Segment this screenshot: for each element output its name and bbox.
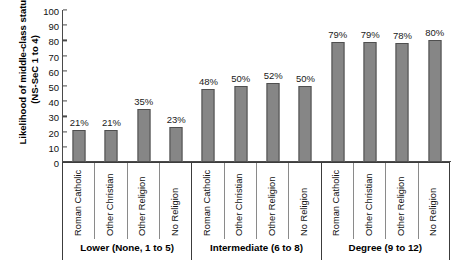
bar-slot: 52% [257, 10, 289, 162]
bar-value-label: 50% [296, 73, 315, 84]
bar[interactable] [299, 86, 312, 162]
group-label: Lower (None, 1 to 5) [62, 238, 191, 260]
bar-value-label: 23% [167, 114, 186, 125]
category-label-table: Roman CatholicOther ChristianOther Relig… [62, 162, 450, 238]
bar[interactable] [364, 42, 377, 162]
bar[interactable] [267, 83, 280, 162]
category-label: Other Christian [234, 173, 244, 236]
y-axis-tick: 100 [43, 1, 63, 19]
y-axis-title-line2: (NS-SeC 1 to 4) [28, 0, 40, 150]
group-label: Degree (9 to 12) [321, 238, 450, 260]
y-axis-tick-label: 40 [48, 97, 59, 108]
bar-value-label: 79% [328, 29, 347, 40]
category-label-cell: Other Religion [127, 163, 159, 239]
category-label-cell: No Religion [159, 163, 191, 239]
bar-value-label: 21% [102, 117, 121, 128]
bar-slot: 21% [63, 10, 95, 162]
bar-slot: 23% [160, 10, 192, 162]
category-label: Roman Catholic [73, 170, 83, 236]
category-label-cell: Roman Catholic [191, 163, 223, 239]
category-label: Roman Catholic [202, 170, 212, 236]
category-label-cell: Roman Catholic [321, 163, 353, 239]
bar[interactable] [105, 130, 118, 162]
category-label-cell: No Religion [418, 163, 450, 239]
category-label-cell: Other Christian [224, 163, 256, 239]
group-label: Intermediate (6 to 8) [191, 238, 320, 260]
bar-slot: 78% [386, 10, 418, 162]
category-label: Other Christian [105, 173, 115, 236]
bar-value-label: 78% [393, 30, 412, 41]
bar-value-label: 21% [70, 117, 89, 128]
y-axis-tick-label: 90 [48, 21, 59, 32]
bar-slot: 80% [419, 10, 451, 162]
bar[interactable] [170, 127, 183, 162]
bar-slot: 48% [192, 10, 224, 162]
category-label: No Religion [299, 188, 309, 236]
category-label-cell: No Religion [288, 163, 320, 239]
bar[interactable] [202, 89, 215, 162]
y-axis-title-line1: Likelihood of middle-class status [17, 0, 28, 144]
y-axis-title: Likelihood of middle-class status (NS-Se… [17, 0, 40, 150]
bar-value-label: 35% [134, 96, 153, 107]
bar[interactable] [73, 130, 86, 162]
bar-slot: 35% [128, 10, 160, 162]
bar-slot: 50% [225, 10, 257, 162]
bar-series: 21%21%35%23%48%50%52%50%79%79%78%80% [63, 10, 450, 162]
y-axis-tick-label: 0 [54, 158, 59, 169]
category-label: Other Christian [364, 173, 374, 236]
bar-value-label: 79% [361, 29, 380, 40]
category-label-cell: Other Christian [353, 163, 385, 239]
category-label-cell: Other Religion [385, 163, 417, 239]
y-axis-tick-label: 10 [48, 143, 59, 154]
category-label: No Religion [428, 188, 438, 236]
group-label-row: Lower (None, 1 to 5)Intermediate (6 to 8… [62, 238, 450, 260]
bar[interactable] [331, 42, 344, 162]
category-label: Other Religion [396, 177, 406, 236]
bar-value-label: 80% [425, 27, 444, 38]
y-axis-tick-label: 80 [48, 36, 59, 47]
y-axis-tick-label: 30 [48, 112, 59, 123]
bar-chart: Likelihood of middle-class status (NS-Se… [0, 0, 457, 270]
bar-value-label: 50% [231, 73, 250, 84]
y-axis-tick-label: 60 [48, 67, 59, 78]
category-label: Other Religion [137, 177, 147, 236]
category-label-cell: Other Christian [94, 163, 126, 239]
bar[interactable] [428, 40, 441, 162]
y-axis-tick-label: 70 [48, 52, 59, 63]
plot-area: 0102030405060708090100 21%21%35%23%48%50… [62, 10, 450, 162]
category-label-cell: Other Religion [256, 163, 288, 239]
bar-value-label: 52% [264, 70, 283, 81]
bar[interactable] [234, 86, 247, 162]
bar[interactable] [137, 109, 150, 162]
bar[interactable] [396, 43, 409, 162]
y-axis-tick-label: 20 [48, 128, 59, 139]
category-label: No Religion [170, 188, 180, 236]
category-label-cell: Roman Catholic [62, 163, 94, 239]
y-axis-tick-label: 50 [48, 82, 59, 93]
bar-slot: 79% [354, 10, 386, 162]
bar-slot: 50% [289, 10, 321, 162]
bar-slot: 79% [322, 10, 354, 162]
bar-value-label: 48% [199, 76, 218, 87]
category-label: Roman Catholic [331, 170, 341, 236]
y-axis-tick-label: 100 [43, 6, 59, 17]
category-label: Other Religion [267, 177, 277, 236]
bar-slot: 21% [95, 10, 127, 162]
